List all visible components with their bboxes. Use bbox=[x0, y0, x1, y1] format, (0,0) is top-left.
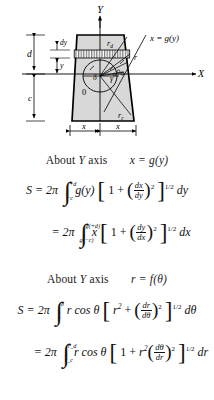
eq1-derivative-fraction: dxdy bbox=[134, 181, 144, 200]
eq4-frac-exponent: 2 bbox=[171, 345, 175, 353]
label-dy: dy bbox=[60, 38, 68, 47]
eq2-derivative-fraction: dydx bbox=[136, 223, 146, 242]
eq3-bracket-operator: + bbox=[124, 303, 131, 317]
x-axis-label: X bbox=[197, 68, 205, 79]
equation-1: S = 2π ∫+d−c g(y) [ 1 + (dxdy)2 ]1/2 dy bbox=[0, 180, 214, 201]
eq3-bracket-open: [ bbox=[102, 310, 110, 312]
eq3-frac-den: dθ bbox=[141, 310, 151, 320]
eq2-lhs: = 2π bbox=[51, 225, 74, 239]
eq2-differential: dx bbox=[179, 225, 190, 239]
eq2-frac-den: dx bbox=[136, 232, 146, 242]
label-y: y bbox=[59, 61, 64, 70]
label-curve-equation: x = g(y) bbox=[149, 33, 179, 43]
caption-about-y-axis-2: About Y axis r = f(θ) bbox=[0, 269, 214, 287]
eq3-paren-open: ( bbox=[134, 309, 140, 311]
eq4-frac-num: dθ bbox=[154, 343, 164, 352]
eq1-differential: dy bbox=[177, 183, 188, 197]
caption-axis-letter-1: Y bbox=[78, 154, 85, 166]
eq2-bracket-exponent: 1/2 bbox=[167, 225, 176, 233]
eq2-limit-upper: g(+d) bbox=[86, 223, 100, 229]
eq4-limit-lower: r_c bbox=[65, 357, 73, 363]
eq1-frac-den: dy bbox=[134, 190, 144, 200]
label-x-right: x bbox=[115, 121, 120, 131]
label-dim-d: d bbox=[27, 49, 32, 59]
eq1-integral-sign: ∫+d−c bbox=[64, 184, 71, 200]
caption-axis-word-1: axis bbox=[88, 154, 107, 166]
eq1-bracket-close: ] bbox=[157, 190, 165, 192]
equation-3: S = 2π ∫δγ r cos θ [ r2 + (drdθ)2 ]1/2 d… bbox=[0, 300, 214, 321]
label-origin: 0 bbox=[82, 87, 86, 97]
eq3-bracket-exponent: 1/2 bbox=[173, 303, 182, 311]
eq4-paren-open: ( bbox=[147, 351, 153, 353]
eq4-lhs: = 2π bbox=[34, 345, 57, 359]
y-axis-label: Y bbox=[97, 4, 104, 15]
equation-4: = 2π ∫r_dr_c r cos θ [ 1 + r2(dθdr)2 ]1/… bbox=[0, 342, 214, 363]
caption-relation-1: x = g(y) bbox=[130, 154, 169, 166]
caption-about-word-2: About bbox=[47, 273, 77, 285]
eq1-lhs: S = 2π bbox=[26, 183, 58, 197]
solid-body bbox=[72, 35, 134, 121]
eq2-frac-num: dy bbox=[136, 223, 146, 232]
eq2-bracket-lead: 1 + bbox=[111, 225, 127, 239]
dimension-dy bbox=[50, 45, 70, 62]
eq4-integral-sign: ∫r_dr_c bbox=[63, 346, 70, 362]
label-radius-r: r bbox=[134, 53, 137, 62]
eq2-bracket-open: [ bbox=[100, 232, 108, 234]
caption-relation-2: r = f(θ) bbox=[131, 273, 167, 285]
dimension-x bbox=[70, 123, 136, 136]
caption-about-word-1: About bbox=[46, 154, 76, 166]
eq3-limit-lower: γ bbox=[58, 315, 60, 321]
eq1-bracket-exponent: 1/2 bbox=[165, 183, 174, 191]
label-x-left: x bbox=[81, 121, 86, 131]
eq2-paren-open: ( bbox=[129, 231, 135, 233]
eq1-frac-exponent: 2 bbox=[151, 183, 155, 191]
eq3-bracket-close: ] bbox=[165, 310, 173, 312]
eq1-paren-open: ( bbox=[127, 189, 133, 191]
differential-strip bbox=[74, 50, 130, 58]
caption-axis-letter-2: Y bbox=[80, 273, 87, 285]
eq4-bracket-open: [ bbox=[110, 352, 118, 354]
eq4-frac-den: dr bbox=[154, 352, 164, 362]
eq3-lhs: S = 2π bbox=[18, 303, 50, 317]
eq4-bracket-lead: 1 + bbox=[120, 345, 136, 359]
eq1-bracket-open: [ bbox=[97, 190, 105, 192]
eq2-integral-sign: ∫g(+d)g(−c) bbox=[81, 226, 88, 242]
eq1-limit-upper: +d bbox=[69, 181, 76, 187]
eq1-bracket-lead: 1 + bbox=[108, 183, 124, 197]
eq3-derivative-fraction: drdθ bbox=[141, 301, 151, 320]
eq1-integrand-lead: g(y) bbox=[75, 183, 94, 197]
label-angle-delta: δ bbox=[93, 73, 97, 82]
eq4-derivative-fraction: dθdr bbox=[154, 343, 164, 362]
eq4-differential: dr bbox=[198, 345, 209, 359]
eq1-limit-lower: −c bbox=[66, 195, 73, 201]
eq3-limit-upper: δ bbox=[61, 301, 64, 307]
eq3-frac-num: dr bbox=[141, 301, 151, 310]
eq3-integrand-lead: r cos θ bbox=[67, 303, 100, 317]
caption-about-y-axis-1: About Y axis x = g(y) bbox=[0, 150, 214, 168]
eq3-frac-exponent: 2 bbox=[158, 303, 162, 311]
equation-2: = 2π ∫g(+d)g(−c) x [ 1 + (dydx)2 ]1/2 dx bbox=[0, 222, 214, 243]
eq1-frac-num: dx bbox=[134, 181, 144, 190]
eq3-integral-sign: ∫δγ bbox=[56, 304, 63, 320]
eq4-limit-upper: r_d bbox=[68, 343, 77, 349]
eq4-integrand-lead: r cos θ bbox=[74, 345, 107, 359]
caption-axis-word-2: axis bbox=[89, 273, 108, 285]
eq2-frac-exponent: 2 bbox=[153, 225, 157, 233]
eq3-bracket-lead-exponent: 2 bbox=[118, 302, 122, 311]
eq2-limit-lower: g(−c) bbox=[80, 237, 94, 243]
label-dim-c: c bbox=[28, 93, 32, 103]
eq4-bracket-close: ] bbox=[178, 352, 186, 354]
eq3-differential: dθ bbox=[184, 303, 196, 317]
eq4-bracket-exponent: 1/2 bbox=[186, 345, 195, 353]
